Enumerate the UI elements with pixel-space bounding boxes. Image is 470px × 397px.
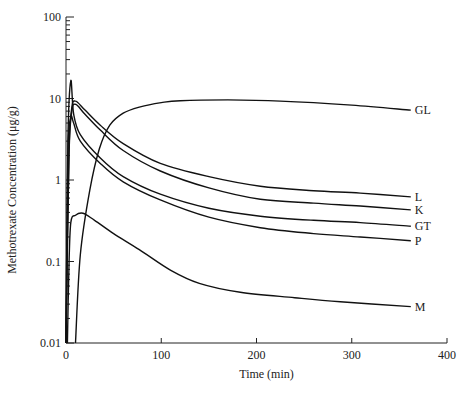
series-labels: GLLKGTPM: [415, 103, 432, 313]
x-tick-label: 300: [343, 348, 361, 362]
series-label-gl: GL: [415, 103, 431, 117]
y-tick-label: 0.1: [46, 255, 61, 269]
series-line-m: [67, 213, 410, 343]
y-tick-label: 100: [43, 10, 61, 24]
curves: [66, 80, 411, 343]
series-label-p: P: [415, 234, 422, 248]
x-tick-label: 200: [248, 348, 266, 362]
x-axis-label: Time (min): [239, 367, 294, 381]
y-tick-label: 1: [55, 173, 61, 187]
x-tick-label: 0: [63, 348, 69, 362]
series-label-k: K: [415, 203, 424, 217]
x-tick-label: 100: [152, 348, 170, 362]
y-tick-label: 0.01: [40, 336, 61, 350]
series-label-gt: GT: [415, 219, 432, 233]
y-tick-label: 10: [49, 92, 61, 106]
series-label-m: M: [415, 300, 426, 314]
series-label-l: L: [415, 190, 422, 204]
y-axis-label: Methotrexate Concentration (μg/g): [5, 106, 19, 274]
chart-root: 0.010.1110100 0100200300400 GLLKGTPM Tim…: [0, 0, 470, 397]
x-ticks: 0100200300400: [63, 338, 456, 362]
series-line-p: [66, 116, 411, 343]
series-line-gl: [76, 100, 411, 343]
x-tick-label: 400: [438, 348, 456, 362]
